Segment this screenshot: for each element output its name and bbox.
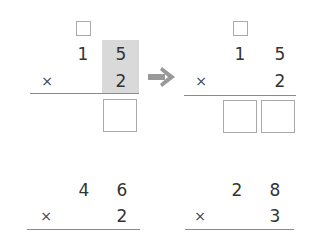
right-arrow-icon xyxy=(147,66,177,88)
answer-input-box-ones[interactable] xyxy=(261,100,295,133)
multiplicand-ones: 6 xyxy=(112,180,132,200)
result-rule xyxy=(185,229,294,230)
multiplicand-tens: 1 xyxy=(230,44,250,64)
multiplier-ones: 2 xyxy=(270,71,290,91)
multiplicand-tens: 4 xyxy=(74,180,94,200)
multiply-sign: × xyxy=(192,206,208,226)
multiplicand-tens: 2 xyxy=(227,180,247,200)
multiplicand-ones: 8 xyxy=(265,180,285,200)
answer-input-box[interactable] xyxy=(103,99,137,132)
multiplier-ones: 2 xyxy=(112,206,132,226)
multiply-sign: × xyxy=(193,71,209,91)
multiplier-ones: 2 xyxy=(111,71,131,91)
result-rule xyxy=(30,93,139,94)
multiplicand-tens: 1 xyxy=(73,44,93,64)
result-rule xyxy=(184,95,296,96)
carry-input-box[interactable] xyxy=(233,21,248,36)
multiplicand-ones: 5 xyxy=(111,44,131,64)
multiply-sign: × xyxy=(39,71,55,91)
answer-input-box-tens[interactable] xyxy=(223,100,257,133)
carry-input-box[interactable] xyxy=(76,21,91,36)
multiply-sign: × xyxy=(38,206,54,226)
multiplier-ones: 3 xyxy=(265,206,285,226)
result-rule xyxy=(27,229,140,230)
multiplicand-ones: 5 xyxy=(270,44,290,64)
